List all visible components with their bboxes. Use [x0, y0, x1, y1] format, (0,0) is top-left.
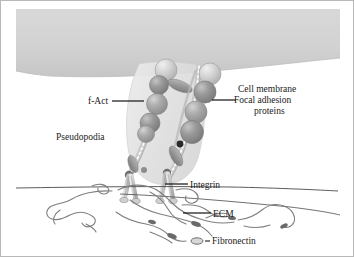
protein-sphere — [185, 101, 207, 123]
label-cell-membrane: Cell membrane — [238, 84, 296, 95]
label-fibronectin: Fibronectin — [212, 236, 256, 247]
protein-sphere — [147, 94, 168, 115]
label-f-act: f-Act — [88, 96, 108, 107]
label-pseudopodia: Pseudopodia — [56, 132, 105, 143]
protein-sphere — [181, 121, 204, 144]
cell-adhesion-figure: Cell membrane Focal adhesion proteins f-… — [0, 0, 354, 257]
protein-sphere — [150, 76, 169, 95]
protein-node — [141, 167, 147, 173]
label-focal-adhesion-proteins-line1: Focal adhesion — [234, 95, 291, 106]
label-ecm: ECM — [213, 209, 234, 220]
diagram-canvas — [0, 0, 354, 257]
label-focal-adhesion-proteins-line2: proteins — [254, 106, 285, 117]
protein-sphere — [138, 126, 155, 143]
protein-node-dark — [177, 141, 184, 148]
label-integrin: Integrin — [190, 180, 220, 191]
